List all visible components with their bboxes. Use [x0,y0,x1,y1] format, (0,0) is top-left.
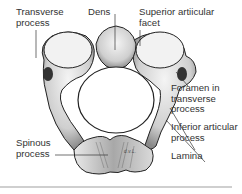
illustrator-signature: d.v.L. [124,149,136,154]
label-dens: Dens [88,7,110,18]
vertebral-foramen [78,67,154,133]
divider-line [0,186,232,188]
label-foramen-in-transverse-process: Foramen in transverse process [171,83,220,115]
label-superior-articular-facet: Superior artiicular facet [139,7,214,28]
label-spinous-process: Spinous process [16,138,51,159]
label-lamina: Lamina [171,151,202,162]
label-inferior-articular-process: Inferior articular process [171,122,238,143]
label-transverse-process: Transverse process [16,7,64,28]
